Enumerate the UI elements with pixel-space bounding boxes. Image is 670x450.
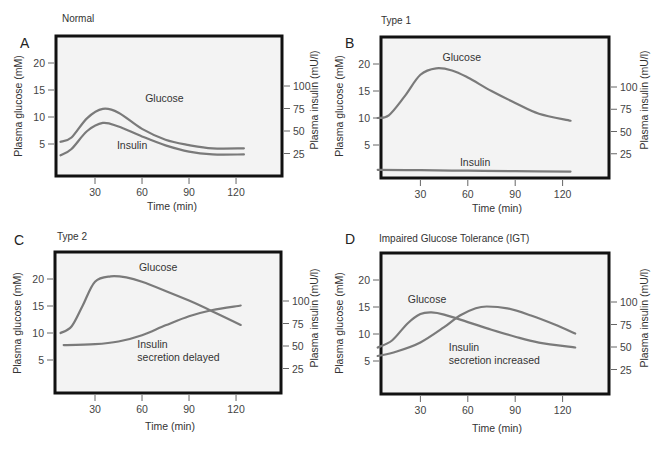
- x-tick-label: 120: [227, 403, 245, 415]
- x-tick-label: 60: [136, 403, 148, 415]
- x-tick-label: 30: [89, 403, 101, 415]
- panel-title: Type 1: [381, 15, 411, 26]
- y2-tick-label: 75: [620, 319, 632, 331]
- y2-tick-label: 75: [293, 103, 305, 115]
- x-axis-label: Time (min): [147, 200, 197, 212]
- curve-label: Insulin: [137, 338, 168, 350]
- y-tick-label: 5: [39, 138, 45, 150]
- panel-letter: D: [345, 231, 355, 247]
- plot-area: [381, 253, 609, 394]
- y-tick-label: 15: [33, 84, 45, 96]
- y-axis-label: Plasma glucose (mM): [11, 272, 23, 374]
- panel-title: Normal: [62, 13, 94, 24]
- plot-area: [55, 252, 281, 393]
- y2-tick-label: 50: [292, 340, 304, 352]
- x-tick-label: 90: [509, 188, 521, 200]
- y-tick-label: 15: [358, 301, 370, 313]
- x-axis-label: Time (min): [472, 422, 522, 434]
- x-tick-label: 30: [415, 188, 427, 200]
- y-tick-label: 20: [358, 274, 370, 286]
- y-axis-label: Plasma glucose (mM): [333, 272, 345, 374]
- x-tick-label: 30: [89, 186, 101, 198]
- y-tick-label: 5: [38, 354, 44, 366]
- y-tick-label: 20: [32, 273, 44, 285]
- plot-area: [381, 37, 609, 178]
- x-tick-label: 60: [462, 188, 474, 200]
- y2-axis-label: Plasma insulin (mU/l): [638, 50, 650, 149]
- x-tick-label: 60: [136, 186, 148, 198]
- x-tick-label: 90: [183, 186, 195, 198]
- curve-label: secretion delayed: [137, 351, 219, 363]
- panel-letter: C: [14, 232, 24, 248]
- y2-tick-label: 75: [620, 103, 632, 115]
- x-axis-label: Time (min): [145, 420, 195, 432]
- panel-c: CType 25101520255075100306090120Time (mi…: [11, 231, 320, 432]
- y2-axis-label: Plasma insulin (mU/l): [308, 268, 320, 367]
- y-axis-label: Plasma glucose (mM): [333, 55, 345, 157]
- y-tick-label: 5: [364, 139, 370, 151]
- y2-axis-label: Plasma insulin (mU/l): [308, 50, 320, 149]
- y2-tick-label: 50: [620, 126, 632, 138]
- plot-area: [56, 36, 282, 176]
- y2-tick-label: 25: [620, 364, 632, 376]
- curve-label: Glucose: [145, 92, 184, 104]
- x-tick-label: 60: [462, 404, 474, 416]
- y-tick-label: 5: [364, 355, 370, 367]
- y2-tick-label: 100: [620, 81, 638, 93]
- y-tick-label: 20: [358, 58, 370, 70]
- y2-tick-label: 100: [620, 296, 638, 308]
- panel-a: ANormal5101520255075100306090120Time (mi…: [12, 13, 320, 212]
- x-tick-label: 30: [415, 404, 427, 416]
- y-tick-label: 10: [33, 111, 45, 123]
- x-tick-label: 120: [554, 188, 572, 200]
- curve-label: secretion increased: [449, 354, 540, 366]
- panel-d: DImpaired Glucose Tolerance (IGT)5101520…: [333, 231, 650, 434]
- y-tick-label: 20: [33, 57, 45, 69]
- y2-tick-label: 25: [620, 148, 632, 160]
- curve-label: Insulin: [460, 156, 491, 168]
- curve-label: Insulin: [117, 139, 148, 151]
- curve-label: Glucose: [408, 293, 447, 305]
- x-tick-label: 120: [227, 186, 245, 198]
- figure-canvas: ANormal5101520255075100306090120Time (mi…: [0, 0, 670, 450]
- y-axis-label: Plasma glucose (mM): [12, 55, 24, 157]
- curve-label: Insulin: [449, 341, 480, 353]
- curve-label: Glucose: [443, 51, 482, 63]
- x-tick-label: 90: [183, 403, 195, 415]
- y-tick-label: 10: [32, 327, 44, 339]
- y-tick-label: 15: [32, 300, 44, 312]
- y-tick-label: 15: [358, 85, 370, 97]
- y2-tick-label: 25: [293, 148, 305, 160]
- panel-title: Type 2: [57, 231, 87, 242]
- x-tick-label: 120: [554, 404, 572, 416]
- x-tick-label: 90: [509, 404, 521, 416]
- y2-tick-label: 75: [292, 318, 304, 330]
- y2-tick-label: 25: [292, 363, 304, 375]
- curve-label: Glucose: [139, 261, 178, 273]
- x-axis-label: Time (min): [472, 202, 522, 214]
- panel-letter: B: [345, 35, 354, 51]
- y2-tick-label: 50: [620, 341, 632, 353]
- y2-tick-label: 50: [293, 125, 305, 137]
- panel-letter: A: [20, 35, 30, 51]
- y2-axis-label: Plasma insulin (mU/l): [638, 268, 650, 367]
- y-tick-label: 10: [358, 112, 370, 124]
- y-tick-label: 10: [358, 328, 370, 340]
- panel-title: Impaired Glucose Tolerance (IGT): [379, 233, 529, 244]
- panel-b: BType 15101520255075100306090120Time (mi…: [333, 15, 650, 214]
